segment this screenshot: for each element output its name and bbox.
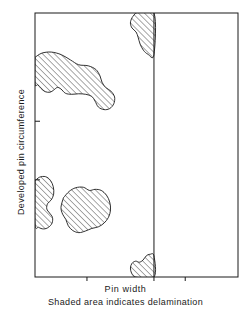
figure-note: Shaded area indicates delamination (0, 297, 251, 307)
plot-background (0, 0, 251, 321)
x-axis-label: Pin width (0, 284, 251, 294)
delamination-plot (0, 0, 251, 321)
figure-container (0, 0, 251, 321)
